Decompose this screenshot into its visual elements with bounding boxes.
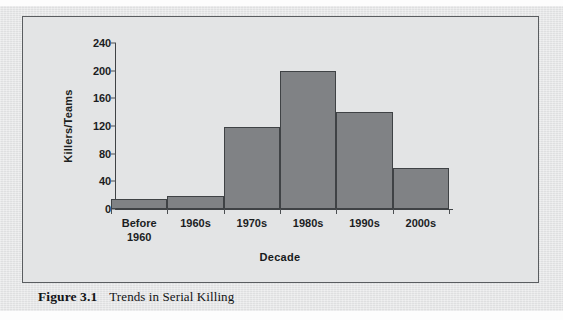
bar (167, 196, 223, 209)
x-axis-tick-mark (336, 209, 337, 214)
x-axis-tick-label-line: 1960s (167, 216, 223, 230)
bar (336, 112, 392, 209)
y-axis-tick-label: 160 (93, 92, 111, 104)
x-axis-tick-label-line: Before (111, 216, 167, 230)
x-axis-tick-label-line: 1960 (111, 230, 167, 244)
x-axis-tick-label-line: 1970s (224, 216, 280, 230)
x-axis-tick-mark (393, 209, 394, 214)
chart-plot-area: Killers/Teams 04080120160200240 Before19… (23, 17, 538, 282)
x-axis-tick-label-line: 1990s (336, 216, 392, 230)
y-axis-title: Killers/Teams (59, 43, 77, 209)
x-axis-tick-labels: Before19601960s1970s1980s1990s2000s (111, 216, 449, 250)
y-axis-tick-label: 200 (93, 65, 111, 77)
figure-frame: Killers/Teams 04080120160200240 Before19… (22, 16, 539, 283)
bar (280, 71, 336, 209)
x-axis-tick-label-line: 2000s (393, 216, 449, 230)
figure-caption-label: Figure 3.1 (38, 289, 97, 304)
x-axis-tick-label: 1980s (280, 216, 336, 230)
bar (111, 199, 167, 209)
y-axis-tick-mark (111, 181, 116, 182)
x-axis-tick-mark (111, 209, 112, 214)
bar (393, 168, 449, 210)
bar (224, 127, 280, 209)
figure-caption: Figure 3.1Trends in Serial Killing (38, 289, 234, 305)
y-axis-tick-mark (111, 126, 116, 127)
y-axis-tick-labels: 04080120160200240 (79, 43, 111, 209)
y-axis-tick-mark (111, 70, 116, 71)
x-axis-tick-label: Before1960 (111, 216, 167, 244)
x-axis-tick-label: 1960s (167, 216, 223, 230)
y-axis-tick-label: 120 (93, 120, 111, 132)
x-axis-tick-label: 2000s (393, 216, 449, 230)
x-axis-tick-mark (449, 209, 450, 214)
figure-caption-text: Trends in Serial Killing (109, 289, 234, 304)
y-axis-title-text: Killers/Teams (62, 89, 74, 162)
x-axis-tick-label: 1990s (336, 216, 392, 230)
x-axis-tick-marks (111, 209, 456, 215)
y-axis-tick-label: 80 (99, 148, 111, 160)
x-axis-title: Decade (111, 251, 449, 263)
y-axis-tick-mark (111, 43, 116, 44)
bars-container (111, 43, 449, 209)
y-axis-tick-label: 40 (99, 175, 111, 187)
x-axis-tick-label: 1970s (224, 216, 280, 230)
page: Killers/Teams 04080120160200240 Before19… (0, 0, 563, 320)
x-axis-tick-mark (224, 209, 225, 214)
x-axis-tick-mark (280, 209, 281, 214)
y-axis-tick-mark (111, 153, 116, 154)
x-axis-tick-label-line: 1980s (280, 216, 336, 230)
y-axis-tick-label: 240 (93, 37, 111, 49)
x-axis-tick-mark (167, 209, 168, 214)
y-axis-tick-mark (111, 209, 116, 210)
y-axis-tick-mark (111, 98, 116, 99)
